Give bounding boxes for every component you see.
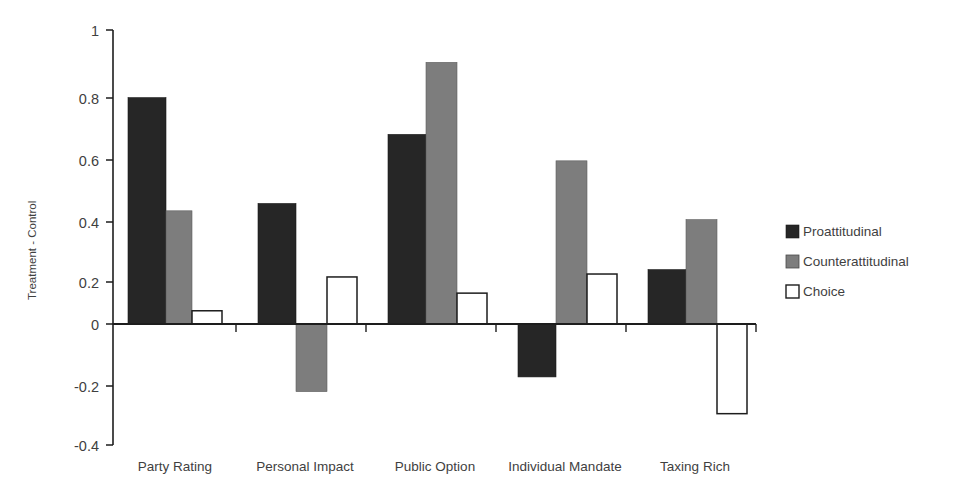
legend-label: Proattitudinal xyxy=(803,224,882,239)
bar-group-individual-mandate xyxy=(518,161,617,377)
y-tick-label: -0.4 xyxy=(74,438,99,454)
bar-proattitudinal xyxy=(518,324,556,377)
x-tick-label: Public Option xyxy=(395,459,475,474)
legend: Proattitudinal Counterattitudinal Choice xyxy=(786,224,909,299)
y-tick-label: 0.8 xyxy=(79,91,99,107)
y-axis-tick-labels: 1 0.8 0.6 0.4 0.2 0 -0.2 -0.4 xyxy=(74,23,99,454)
bar-counterattitudinal xyxy=(686,220,717,324)
legend-label: Choice xyxy=(803,284,845,299)
bar-counterattitudinal xyxy=(166,211,192,324)
y-tick-label: 0.4 xyxy=(79,215,99,231)
bar-group-taxing-rich xyxy=(648,220,747,414)
legend-item-counterattitudinal: Counterattitudinal xyxy=(786,254,909,269)
bar-group-public-option xyxy=(388,62,487,324)
y-axis-ticks xyxy=(106,30,113,445)
x-axis-category-labels: Party Rating Personal Impact Public Opti… xyxy=(138,459,730,474)
bar-choice xyxy=(327,277,357,324)
bar-proattitudinal xyxy=(648,270,686,324)
bar-counterattitudinal xyxy=(426,62,457,324)
x-tick-label: Taxing Rich xyxy=(660,459,730,474)
bar-choice xyxy=(587,274,617,324)
chart-container: 1 0.8 0.6 0.4 0.2 0 -0.2 -0.4 Treatment … xyxy=(0,0,954,498)
legend-item-choice: Choice xyxy=(786,284,845,299)
x-tick-label: Personal Impact xyxy=(256,459,354,474)
bar-group-personal-impact xyxy=(258,203,357,391)
y-tick-label: 0.6 xyxy=(79,153,99,169)
bar-group-party-rating xyxy=(128,98,222,324)
y-tick-label: 0 xyxy=(91,317,99,333)
bar-proattitudinal xyxy=(258,203,296,324)
legend-swatch-icon xyxy=(786,285,799,298)
bar-choice xyxy=(457,293,487,324)
legend-item-proattitudinal: Proattitudinal xyxy=(786,224,882,239)
legend-swatch-icon xyxy=(786,255,799,268)
x-tick-label: Individual Mandate xyxy=(508,459,621,474)
legend-swatch-icon xyxy=(786,225,799,238)
y-tick-label: 1 xyxy=(91,23,99,39)
bar-choice xyxy=(717,324,747,414)
bar-counterattitudinal xyxy=(296,324,327,392)
bar-proattitudinal xyxy=(388,134,426,324)
x-tick-label: Party Rating xyxy=(138,459,212,474)
y-tick-label: -0.2 xyxy=(74,379,99,395)
legend-label: Counterattitudinal xyxy=(803,254,909,269)
bar-counterattitudinal xyxy=(556,161,587,324)
bar-choice xyxy=(192,311,222,324)
bar-chart: 1 0.8 0.6 0.4 0.2 0 -0.2 -0.4 Treatment … xyxy=(0,0,954,498)
bar-proattitudinal xyxy=(128,98,166,324)
y-tick-label: 0.2 xyxy=(79,275,99,291)
y-axis-title: Treatment - Control xyxy=(26,201,38,300)
